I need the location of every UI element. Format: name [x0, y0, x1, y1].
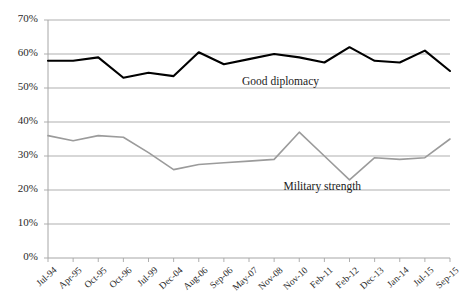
chart-container: 0%10%20%30%40%50%60%70% Jul-94Apr-95Oct-…: [0, 0, 461, 303]
y-axis-tick-label: 30%: [2, 148, 38, 160]
gridlines-group: [48, 20, 450, 224]
series-line-good-diplomacy: [48, 47, 450, 78]
line-chart-plot: [0, 0, 461, 303]
axis-lines-group: [48, 20, 450, 258]
y-axis-tick-label: 50%: [2, 80, 38, 92]
y-axis-tick-label: 60%: [2, 46, 38, 58]
y-axis-tick-label: 40%: [2, 114, 38, 126]
series-lines-group: [48, 47, 450, 180]
y-axis-tick-label: 20%: [2, 182, 38, 194]
military-strength-label: Military strength: [284, 180, 362, 192]
y-axis-tick-label: 10%: [2, 216, 38, 228]
y-axis-tick-label: 70%: [2, 12, 38, 24]
good-diplomacy-label: Good diplomacy: [242, 75, 319, 87]
y-axis-tick-label: 0%: [2, 250, 38, 262]
x-axis-ticks-group: [44, 20, 450, 262]
